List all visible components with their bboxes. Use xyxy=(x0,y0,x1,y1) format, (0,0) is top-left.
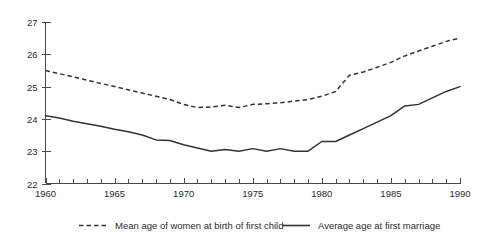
y-axis-tick-labels: 222324252627 xyxy=(27,17,38,190)
line-chart: 222324252627 196019651970197519801985199… xyxy=(0,0,488,242)
chart-legend: Mean age of women at birth of first chil… xyxy=(79,220,440,231)
y-tick-label: 23 xyxy=(27,146,38,157)
x-axis: 1960196519701975198019851990 xyxy=(35,178,471,199)
x-tick-label: 1990 xyxy=(449,188,470,199)
x-tick-label: 1970 xyxy=(173,188,194,199)
legend-label-mean-age: Mean age of women at birth of first chil… xyxy=(115,220,283,231)
legend-label-average-marriage-age: Average age at first marriage xyxy=(318,220,440,231)
y-tick-label: 26 xyxy=(27,49,38,60)
y-tick-label: 27 xyxy=(27,17,38,28)
y-axis: 222324252627 xyxy=(27,17,51,190)
y-tick-label: 25 xyxy=(27,82,38,93)
y-tick-label: 24 xyxy=(27,114,38,125)
chart-container: 222324252627 196019651970197519801985199… xyxy=(0,0,488,242)
x-axis-ticks xyxy=(47,178,461,184)
series-line-mean-age-at-birth-of-first-child xyxy=(46,38,461,107)
legend-entry-average-marriage-age: Average age at first marriage xyxy=(282,220,440,231)
x-axis-tick-labels: 1960196519701975198019851990 xyxy=(35,188,471,199)
x-tick-label: 1965 xyxy=(104,188,125,199)
x-tick-label: 1960 xyxy=(35,188,56,199)
x-tick-label: 1980 xyxy=(311,188,332,199)
series-line-average-age-at-first-marriage xyxy=(46,87,461,152)
x-tick-label: 1975 xyxy=(242,188,263,199)
plot-area xyxy=(46,38,461,151)
legend-entry-mean-age: Mean age of women at birth of first chil… xyxy=(79,220,283,231)
x-tick-label: 1985 xyxy=(380,188,401,199)
